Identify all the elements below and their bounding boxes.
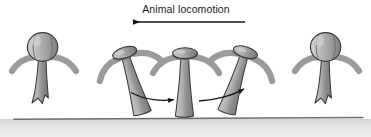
organism-detached-upright-right (295, 33, 359, 104)
locomotion-diagram-canvas: Animal locomotion (0, 0, 371, 137)
organism-planted-leaning-left (92, 38, 175, 124)
ground-substrate (0, 117, 371, 137)
organism-planted-leaning-right (196, 38, 279, 124)
animal-locomotion-figure: Animal locomotion (0, 0, 371, 137)
organism-detached-upright-left (12, 33, 76, 104)
page-title: Animal locomotion (142, 3, 230, 15)
